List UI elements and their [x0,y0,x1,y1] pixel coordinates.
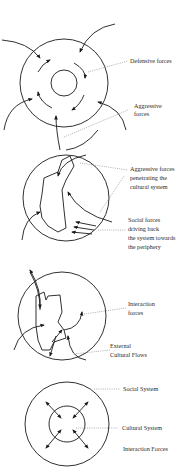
aggressive-arrow-icon [98,102,126,130]
label-interaction: Interaction [128,300,155,307]
defensive-arrow-icon [38,60,50,72]
label-cultural-system: cultural system [130,183,168,190]
aggressive-arrow-icon [56,116,60,150]
aggressive-arrow-icon [4,99,32,130]
label-forces: forces [134,110,150,117]
interaction-arrow-icon [30,270,40,310]
label-interaction-forces: Interaction Forces [123,445,168,452]
aggressive-arrow-icon [80,24,115,52]
social-force-arrow-icon [72,232,92,234]
label-aggressive: Aggressive [134,102,162,109]
social-force-arrow-icon [76,222,96,226]
inner-circle [51,70,77,96]
label-driving-back: driving back [128,225,160,232]
label-forces-2: forces [128,309,144,316]
external-flow-arrow-icon [68,336,86,360]
interaction-arrow-icon [64,312,82,330]
label-penetrating: penetrating the [130,174,167,181]
defensive-arrow-icon [38,92,52,108]
arc-line [66,130,98,150]
interaction-arrow-icon [50,336,56,356]
panel-penetration: Aggressive forces penetrating the cultur… [22,155,176,250]
label-periphery: the periphery [128,243,162,250]
double-arrow-icon [73,430,88,448]
defensive-arrow-icon [72,95,84,110]
label-system-towards: the system towards [128,234,176,241]
panel-defensive-aggressive: Defensive forces Aggressive forces [2,24,172,150]
social-system-circle [25,382,109,466]
double-arrow-icon [73,402,88,418]
label-external: External [110,342,131,349]
external-flow-arrow-icon [14,325,44,350]
double-arrow-icon [46,430,61,448]
outer-circle [20,39,108,127]
label-cultural-system-2: Cultural System [122,424,162,431]
aggressive-arrow-icon [22,212,40,240]
label-aggressive-forces: Aggressive forces [130,165,175,172]
outer-circle [18,272,106,360]
defensive-arrow-icon [74,63,85,78]
panel-interaction: Interaction forces External Cultural Flo… [14,270,155,360]
panel-social-cultural-system: Social System Cultural System Interactio… [25,382,168,466]
double-arrow-icon [46,402,61,418]
aggressive-arrow-icon [68,192,112,222]
label-defensive-forces: Defensive forces [130,57,172,64]
label-social-forces: Social forces [128,216,161,223]
aggressive-arrow-icon [2,40,40,58]
label-cultural-flows: Cultural Flows [110,351,148,358]
social-force-arrow-icon [74,227,94,230]
label-social-system: Social System [123,385,158,392]
diagram-canvas: Defensive forces Aggressive forces Aggre… [0,0,192,470]
